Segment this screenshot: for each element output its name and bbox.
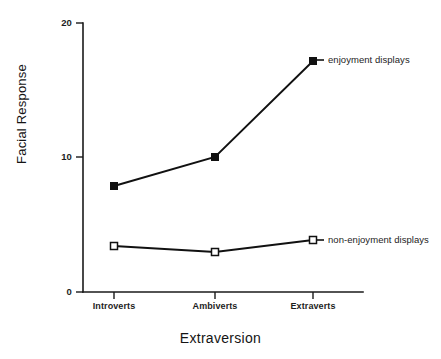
x-axis-tick-label-introverts: Introverts <box>64 301 164 311</box>
y-axis-tick-label-10: 10 <box>28 151 72 162</box>
series-label-non-enjoyment: non-enjoyment displays <box>328 234 429 245</box>
y-axis-title: Facial Response <box>14 64 29 164</box>
series-label-enjoyment: enjoyment displays <box>328 54 410 65</box>
x-axis-tick-label-extraverts: Extraverts <box>263 301 363 311</box>
data-point-non-enjoyment-ambiverts <box>212 249 219 256</box>
data-point-enjoyment-ambiverts <box>212 154 219 161</box>
y-axis-tick-label-20: 20 <box>28 17 72 28</box>
data-point-enjoyment-extraverts <box>310 58 317 65</box>
series-line-enjoyment <box>114 61 313 186</box>
data-point-non-enjoyment-introverts <box>111 243 118 250</box>
data-point-enjoyment-introverts <box>111 183 118 190</box>
x-axis-title: Extraversion <box>0 330 441 346</box>
chart-figure: 20 10 0 Introverts Ambiverts Extraverts … <box>0 0 441 359</box>
y-axis-tick-label-0: 0 <box>28 286 72 297</box>
x-axis-tick-label-ambiverts: Ambiverts <box>165 301 265 311</box>
y-axis-title-wrapper: Facial Response <box>12 49 30 179</box>
data-point-non-enjoyment-extraverts <box>310 237 317 244</box>
